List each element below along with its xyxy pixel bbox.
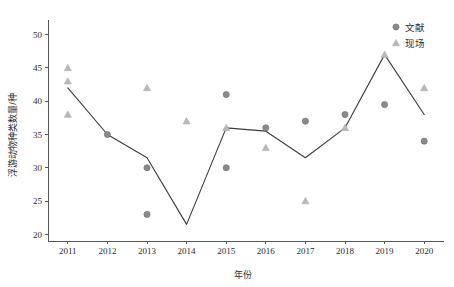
data-point-triangle xyxy=(262,144,269,150)
data-point-circle xyxy=(104,131,110,137)
y-tick-label: 30 xyxy=(33,163,43,173)
data-point-triangle xyxy=(183,118,190,124)
x-axis-ticks: 2011201220132014201520162017201820192020 xyxy=(59,241,434,256)
data-point-triangle xyxy=(143,84,150,90)
data-point-circle xyxy=(223,165,229,171)
x-tick-label: 2016 xyxy=(257,246,276,256)
y-tick-label: 20 xyxy=(33,230,43,240)
data-point-circle xyxy=(144,211,150,217)
trend-line-series xyxy=(68,55,424,225)
legend-label-text: 文献 xyxy=(405,22,425,33)
data-point-triangle xyxy=(302,197,309,203)
data-point-circle xyxy=(263,125,269,131)
chart-container: 20253035404550 2011201220132014201520162… xyxy=(0,0,454,287)
data-point-circle xyxy=(342,111,348,117)
y-tick-label: 40 xyxy=(33,96,43,106)
legend-marker-triangle xyxy=(392,39,399,45)
legend: 文献现场 xyxy=(392,22,425,49)
x-tick-label: 2013 xyxy=(138,246,157,256)
scatter-line-plot: 20253035404550 2011201220132014201520162… xyxy=(0,0,454,287)
legend-label-text: 现场 xyxy=(405,38,425,49)
data-point-circle xyxy=(223,91,229,97)
data-point-triangle xyxy=(64,78,71,84)
x-tick-label: 2017 xyxy=(296,246,315,256)
x-tick-label: 2015 xyxy=(217,246,236,256)
data-point-triangle xyxy=(64,64,71,70)
data-point-triangle xyxy=(381,51,388,57)
data-point-circle xyxy=(421,138,427,144)
y-tick-label: 50 xyxy=(33,30,43,40)
data-point-circle xyxy=(382,101,388,107)
x-tick-label: 2011 xyxy=(59,246,77,256)
data-point-circle xyxy=(302,118,308,124)
data-point-circle xyxy=(144,165,150,171)
x-tick-label: 2020 xyxy=(415,246,434,256)
data-point-triangle xyxy=(421,84,428,90)
data-point-triangle xyxy=(341,124,348,130)
x-axis-title: 年份 xyxy=(234,269,252,280)
x-tick-label: 2012 xyxy=(98,246,116,256)
data-point-triangle xyxy=(64,111,71,117)
y-axis-ticks: 20253035404550 xyxy=(33,30,48,240)
x-tick-label: 2019 xyxy=(376,246,395,256)
x-tick-label: 2018 xyxy=(336,246,355,256)
legend-marker-circle xyxy=(393,24,399,30)
x-tick-label: 2014 xyxy=(178,246,197,256)
y-tick-label: 45 xyxy=(33,63,43,73)
y-tick-label: 35 xyxy=(33,130,43,140)
y-tick-label: 25 xyxy=(33,196,43,206)
trend-line-path xyxy=(68,55,424,225)
data-point-triangle xyxy=(223,124,230,130)
y-axis-title: 浮游动物种类数量/种 xyxy=(7,93,18,177)
